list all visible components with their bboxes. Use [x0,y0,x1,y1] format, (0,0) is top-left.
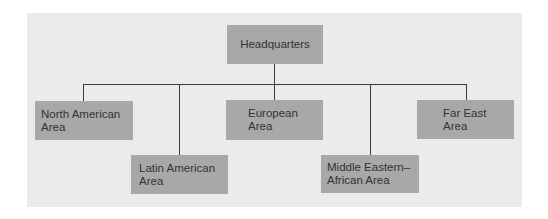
node-middle-eastern-african-area: Middle Eastern– African Area [321,155,419,193]
node-label: Headquarters [240,38,310,51]
node-north-american-area: North American Area [35,101,133,140]
connector-latin-american [179,84,180,155]
connector-north-american [83,84,84,101]
node-headquarters: Headquarters [227,25,323,64]
node-label: Middle Eastern– African Area [327,161,410,187]
connector-hq-down [274,64,275,84]
connector-far-east [466,84,467,100]
node-label: Far East Area [443,107,486,133]
node-label: North American Area [41,108,120,134]
node-label: Latin American Area [139,162,215,188]
node-european-area: European Area [226,100,323,140]
connector-european [274,84,275,100]
node-latin-american-area: Latin American Area [131,155,228,194]
connector-horizontal-bus [83,84,467,85]
node-far-east-area: Far East Area [417,100,514,139]
node-label: European Area [248,107,298,133]
connector-middle-eastern-african [370,84,371,155]
